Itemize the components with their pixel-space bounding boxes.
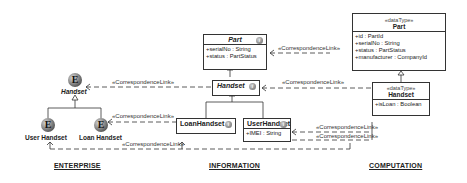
class-attributes: +IMEI : String [244,128,290,138]
enterprise-loan-handset-label: Loan Handset [79,134,122,141]
info-loan-handset-class[interactable]: LoanHandset i [176,118,236,134]
info-icon: i [280,121,287,128]
class-attributes: +isLoan : Boolean [373,99,429,109]
entity-icon: E [68,73,82,87]
entity-icon: E [94,118,108,132]
info-handset-class[interactable]: Handset i [212,80,260,96]
info-icon: i [256,37,263,44]
info-user-handset-class[interactable]: UserHandset i +IMEI : String [243,118,291,142]
class-header: UserHandset i [244,119,290,128]
correspondence-link-label: «CorrespondenceLink» [278,45,340,51]
section-computation: COMPUTATION [369,162,422,169]
class-header: Handset i [213,81,259,90]
class-name: Part [355,23,443,30]
attribute: +serialNo : String [206,46,264,53]
correspondence-link-label: «CorrespondenceLink» [112,79,174,85]
class-header: «dataType» Handset [373,83,429,99]
attribute: +status : PartStatus [206,53,264,60]
attribute: +status : PartStatus [355,47,443,54]
class-name: Part [228,36,242,43]
correspondence-diagram: E Handset E User Handset E Loan Handset … [0,0,467,183]
attribute: +manufacturer : CompanyId [355,54,443,61]
section-enterprise: ENTERPRISE [54,162,101,169]
section-information: INFORMATION [209,162,260,169]
class-name: Handset [375,91,427,98]
class-header: LoanHandset i [177,119,235,128]
attribute: +id : PartId [355,33,443,40]
class-name: Handset [217,82,245,89]
info-part-class[interactable]: Part i +serialNo : String +status : Part… [203,34,267,70]
comp-handset-datatype[interactable]: «dataType» Handset +isLoan : Boolean [372,82,430,116]
info-icon: i [249,83,256,90]
comp-part-datatype[interactable]: «dataType» Part +id : PartId +serialNo :… [352,13,446,71]
correspondence-link-label: «CorrespondenceLink» [316,133,378,139]
correspondence-link-label: «CorrespondenceLink» [112,113,174,119]
class-name: LoanHandset [180,120,224,127]
attribute: +IMEI : String [246,130,288,137]
enterprise-handset-label: Handset [61,88,87,95]
class-attributes: +serialNo : String +status : PartStatus [204,44,266,61]
class-header: Part i [204,35,266,44]
enterprise-user-handset-label: User Handset [25,134,67,141]
correspondence-link-label: «CorrespondenceLink» [282,79,344,85]
attribute: +serialNo : String [355,40,443,47]
correspondence-link-label: «CorrespondenceLink» [122,141,184,147]
correspondence-link-label: «CorrespondenceLink» [316,124,378,130]
entity-icon: E [41,118,55,132]
attribute: +isLoan : Boolean [375,101,427,108]
class-header: «dataType» Part [353,14,445,31]
info-icon: i [225,121,232,128]
class-attributes: +id : PartId +serialNo : String +status … [353,31,445,62]
